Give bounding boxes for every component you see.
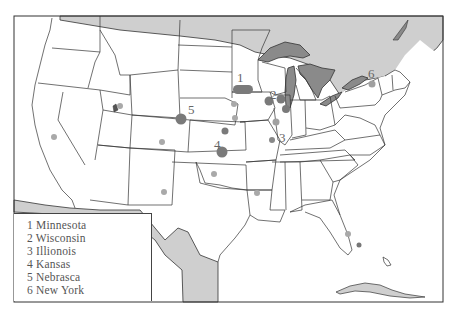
marker-number-1: 1	[237, 70, 244, 85]
dot-oklahoma	[211, 171, 217, 177]
legend-item-kansas: 4 Kansas	[27, 258, 151, 271]
marker-illinois-a	[282, 105, 290, 113]
dot-california	[51, 134, 57, 140]
marker-kansas-b	[222, 128, 229, 135]
legend-item-illinois: 3 Illionois	[27, 245, 151, 258]
legend-item-minnesota: 1 Minnesota	[27, 219, 151, 232]
marker-wisconsin-b	[277, 95, 286, 104]
dot-arkansas	[254, 190, 260, 196]
dot-utah	[117, 103, 123, 109]
marker-number-5: 5	[188, 102, 195, 117]
dot-iowa-b	[232, 115, 238, 121]
marker-number-4: 4	[214, 137, 221, 152]
marker-number-2: 2	[270, 87, 277, 102]
marker-illinois-b	[273, 119, 280, 126]
dot-colorado	[159, 139, 165, 145]
dot-iowa-a	[231, 101, 237, 107]
dot-new-mexico	[161, 189, 167, 195]
map-legend: 1 Minnesota 2 Wisconsin 3 Illionois 4 Ka…	[14, 213, 152, 301]
legend-item-new-york: 6 New York	[27, 284, 151, 297]
legend-item-wisconsin: 2 Wisconsin	[27, 232, 151, 245]
marker-minnesota	[233, 85, 253, 94]
marker-new-york	[369, 81, 376, 88]
marker-nebraska	[176, 114, 187, 125]
dot-florida-b	[357, 243, 362, 248]
marker-illinois-c	[269, 137, 275, 143]
marker-number-6: 6	[368, 66, 375, 81]
legend-item-nebraska: 5 Nebrasca	[27, 271, 151, 284]
dot-florida-a	[345, 231, 351, 237]
lake-huron	[298, 64, 335, 98]
marker-number-3: 3	[279, 130, 286, 145]
